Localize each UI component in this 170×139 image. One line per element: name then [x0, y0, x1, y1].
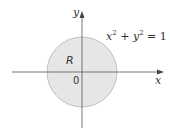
x-axis-label: x	[155, 75, 161, 86]
equation-equals-one: = 1	[144, 30, 167, 43]
unit-circle-diagram	[0, 0, 170, 139]
circle-equation: x2 + y2 = 1	[106, 31, 167, 42]
y-axis-label: y	[73, 7, 79, 18]
y-axis-arrow-icon	[80, 11, 85, 18]
region-label: R	[66, 55, 74, 66]
origin-label: 0	[73, 76, 79, 86]
equation-plus: +	[117, 30, 133, 43]
